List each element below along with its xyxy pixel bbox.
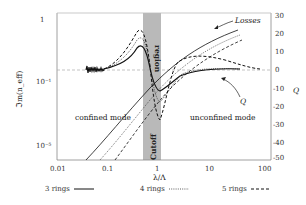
legend-item-3-rings: 3 rings — [45, 185, 94, 193]
svg-text:-10: -10 — [273, 85, 284, 93]
legend-label: 3 rings — [45, 185, 70, 193]
x-tick: 100 — [258, 165, 271, 173]
y-left-tick: 10⁻⁵ — [36, 142, 52, 150]
y-right-label: Q — [293, 86, 299, 95]
loss-curve-5-rings — [115, 40, 242, 160]
x-axis-label: λ/Λ — [153, 173, 166, 182]
y-left-tick: 10⁻¹ — [36, 78, 52, 86]
x-tick: 0.1 — [102, 165, 113, 173]
y-left-tick: 1 — [40, 16, 44, 24]
losses-arrow — [216, 21, 233, 28]
x-tick: 0.01 — [50, 165, 66, 173]
svg-text:0: 0 — [275, 66, 279, 74]
legend-line-solid — [74, 187, 94, 191]
svg-text:-20: -20 — [273, 103, 284, 111]
x-tick: 10 — [205, 165, 214, 173]
q-arrow — [223, 79, 240, 97]
legend-item-4-rings: 4 rings — [140, 185, 189, 193]
noise-segment — [86, 66, 104, 73]
loss-curve-4-rings — [100, 35, 240, 160]
region-label: region — [153, 45, 162, 73]
legend-label: 4 rings — [140, 185, 165, 193]
svg-text:-40: -40 — [273, 139, 284, 147]
x-tick: 1 — [155, 165, 159, 173]
unconfined-mode-label: unconfined mode — [190, 113, 256, 122]
svg-text:20: 20 — [275, 30, 284, 38]
legend-label: 5 rings — [222, 185, 247, 193]
y-left-label: ℑm(n_eff) — [15, 71, 24, 108]
cutoff-label: Cutoff — [149, 133, 158, 160]
svg-text:30: 30 — [275, 12, 284, 20]
legend-item-5-rings: 5 rings — [222, 185, 271, 193]
svg-text:10: 10 — [275, 48, 284, 56]
confined-mode-label: confined mode — [75, 113, 131, 122]
svg-text:-30: -30 — [273, 121, 284, 129]
svg-text:-50: -50 — [273, 154, 284, 162]
q-annotation: Q — [240, 97, 246, 106]
losses-annotation: Losses — [234, 16, 261, 25]
chart: 1 10⁻¹ 10⁻⁵ 30 20 10 0 -10 -20 -30 -40 -… — [0, 0, 306, 205]
legend-line-dotted — [169, 187, 189, 191]
legend-line-dashed — [251, 187, 271, 191]
y-right-ticks: 30 20 10 0 -10 -20 -30 -40 -50 — [273, 12, 284, 162]
